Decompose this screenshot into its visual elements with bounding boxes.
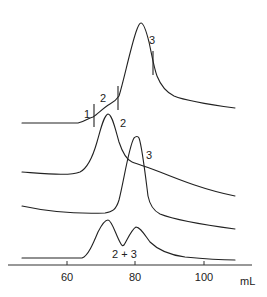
- top-trace-curve: [22, 23, 235, 123]
- x-axis-unit-label: mL: [240, 275, 255, 287]
- elution-chart: 1 2 3 2 3 2 + 3 60 80 100 mL: [0, 0, 267, 297]
- series-3: 3: [22, 137, 235, 230]
- x-tick-label-80: 80: [129, 271, 141, 283]
- combined-label: 2 + 3: [112, 248, 137, 260]
- top-label-3: 3: [149, 34, 155, 46]
- series-2-plus-3: 2 + 3: [22, 220, 235, 260]
- x-axis: 60 80 100 mL: [8, 261, 255, 287]
- series-top-trace: 1 2 3: [22, 23, 235, 127]
- curve-3-label: 3: [146, 149, 152, 161]
- top-label-2: 2: [100, 92, 106, 104]
- curve-3: [22, 137, 235, 230]
- x-tick-label-100: 100: [195, 271, 213, 283]
- top-label-1: 1: [84, 108, 90, 120]
- curve-2-label: 2: [120, 117, 126, 129]
- x-tick-label-60: 60: [61, 271, 73, 283]
